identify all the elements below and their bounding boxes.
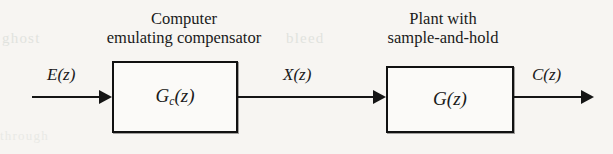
block-compensator-gain: G	[155, 85, 169, 106]
block-plant-label: G(z)	[388, 89, 512, 110]
block-compensator: Gc(z)	[112, 61, 238, 133]
wire-output	[514, 96, 586, 98]
caption-plant-line2: sample-and-hold	[343, 28, 543, 47]
block-diagram-canvas: ghost bleed through Computer emulating c…	[0, 0, 613, 154]
block-plant-gain: G	[433, 88, 447, 109]
ghost-text-bottom: through	[0, 128, 49, 144]
signal-label-intermediate: X(z)	[283, 66, 311, 83]
block-plant-argument: (z)	[447, 88, 467, 109]
caption-plant: Plant with sample-and-hold	[343, 9, 543, 48]
signal-label-input: E(z)	[47, 66, 75, 83]
caption-compensator: Computer emulating compensator	[74, 9, 294, 48]
block-compensator-argument: (z)	[174, 85, 194, 106]
arrowhead-intermediate-icon	[373, 90, 386, 104]
caption-compensator-line1: Computer	[74, 9, 294, 28]
block-compensator-label: Gc(z)	[114, 86, 236, 107]
caption-plant-line1: Plant with	[343, 9, 543, 28]
ghost-text-left: ghost	[2, 30, 41, 47]
arrowhead-output-icon	[581, 90, 594, 104]
block-plant: G(z)	[386, 66, 514, 133]
signal-label-output: C(z)	[532, 66, 561, 83]
wire-intermediate	[238, 96, 378, 98]
caption-compensator-line2: emulating compensator	[74, 28, 294, 47]
arrowhead-input-icon	[99, 90, 112, 104]
wire-input	[32, 96, 104, 98]
